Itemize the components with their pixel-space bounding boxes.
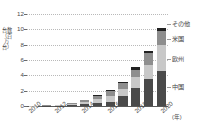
y-tick-label-2: 2 — [2, 88, 24, 94]
legend-item-usa: 米国 — [172, 36, 184, 43]
legend-item-china: 中国 — [172, 84, 184, 91]
bar-column — [55, 14, 64, 106]
bar-segment — [157, 45, 166, 71]
legend-leader-china — [167, 87, 171, 88]
bar-column — [42, 14, 51, 106]
bar-column — [29, 14, 38, 106]
y-tick-label-4: 4 — [2, 72, 24, 78]
bar-segment — [157, 71, 166, 106]
x-axis-ticks: 2010 2012 2014 2016 2018 2020 — [27, 106, 168, 135]
bar-column — [131, 14, 140, 106]
bar-column — [118, 14, 127, 106]
legend-leader-usa — [167, 39, 171, 40]
legend-item-europe: 欧州 — [172, 56, 184, 63]
bar-column — [144, 14, 153, 106]
bar-group — [27, 14, 168, 106]
bar-column — [67, 14, 76, 106]
y-tick-label-0: 0 — [2, 103, 24, 109]
bar-segment — [131, 70, 140, 78]
bar-segment — [144, 65, 153, 80]
y-tick-label-10: 10 — [2, 26, 24, 32]
bar-segment — [118, 89, 127, 96]
plot-area — [27, 14, 168, 106]
bar-segment — [144, 53, 153, 64]
stacked-bar-chart: 台数（百万台） 12 10 8 6 4 2 0 2010 2012 2014 2… — [0, 0, 201, 135]
bar-column — [106, 14, 115, 106]
bar-column — [93, 14, 102, 106]
y-tick-label-8: 8 — [2, 42, 24, 48]
legend-leader-other — [167, 24, 171, 25]
bar-segment — [131, 77, 140, 87]
x-axis-unit-label: (年) — [172, 113, 182, 121]
legend-item-other: その他 — [172, 21, 190, 28]
legend-leader-europe — [167, 59, 171, 60]
bar-column — [80, 14, 89, 106]
y-tick-label-6: 6 — [2, 57, 24, 63]
bar-column — [157, 14, 166, 106]
bar-segment — [157, 31, 166, 45]
y-tick-label-12: 12 — [2, 11, 24, 17]
